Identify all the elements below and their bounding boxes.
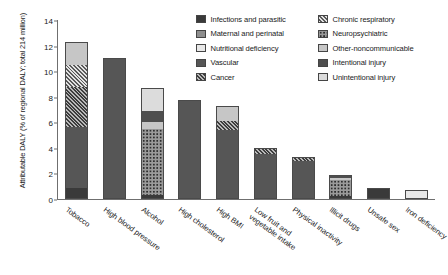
bar-segment-intentional[interactable]	[141, 111, 164, 122]
bar-segment-othernon[interactable]	[141, 122, 164, 129]
y-axis-tick-mark	[54, 46, 57, 47]
legend-item[interactable]: Infections and parasitic	[196, 12, 318, 27]
bar-segment-cancer[interactable]	[216, 121, 239, 130]
legend-label: Vascular	[211, 58, 239, 67]
x-axis-line	[57, 199, 435, 200]
legend-label: Neuropsychiatric	[333, 29, 388, 38]
y-axis-tick-mark	[54, 123, 57, 124]
legend-label: Intentional injury	[333, 58, 387, 67]
legend-label: Maternal and perinatal	[211, 29, 284, 38]
bar-segment-othernon[interactable]	[65, 42, 88, 65]
legend-swatch-cancer	[196, 73, 206, 81]
bar-stack[interactable]	[367, 188, 390, 199]
legend-label: Chronic respiratory	[333, 15, 395, 24]
bar-segment-intentional[interactable]	[329, 175, 352, 178]
bar-segment-cancer[interactable]	[65, 87, 88, 128]
bar-stack[interactable]	[254, 148, 277, 199]
bar-segment-infections[interactable]	[367, 188, 390, 199]
bar-segment-infections[interactable]	[141, 195, 164, 199]
bar-segment-infections[interactable]	[329, 196, 352, 199]
x-axis-label: Tobacco	[64, 205, 92, 229]
bar-segment-nutrition[interactable]	[405, 190, 428, 199]
y-axis-tick-mark	[54, 174, 57, 175]
bar-segment-chronic[interactable]	[65, 65, 88, 87]
x-axis-label: Unsafe sex	[366, 205, 402, 235]
x-axis-label: Illicit drugs	[328, 205, 362, 233]
bar-stack[interactable]	[178, 100, 201, 199]
y-axis-title: Attributable DALY (% of regional DALY; t…	[18, 6, 27, 196]
legend-item[interactable]: Maternal and perinatal	[196, 27, 318, 42]
legend-swatch-infections	[196, 15, 206, 23]
y-axis-tick-mark	[54, 148, 57, 149]
legend-item[interactable]: Nutritional deficiency	[196, 41, 318, 56]
legend-swatch-vascular	[196, 59, 206, 67]
legend-swatch-othernon	[318, 44, 328, 52]
legend-item[interactable]: Chronic respiratory	[318, 12, 436, 27]
bar-segment-othernon[interactable]	[329, 178, 352, 180]
legend-item[interactable]: Other-noncommunicable	[318, 41, 436, 56]
bar-segment-vascular[interactable]	[292, 161, 315, 199]
bar-stack[interactable]	[329, 175, 352, 199]
y-axis-tick-mark	[54, 21, 57, 22]
bar-stack[interactable]	[141, 88, 164, 199]
legend-item[interactable]: Intentional injury	[318, 56, 436, 71]
y-axis-tick-mark	[54, 72, 57, 73]
legend-item[interactable]: Neuropsychiatric	[318, 27, 436, 42]
x-axis-label: Iron deficiency	[403, 205, 448, 241]
bar-segment-vascular[interactable]	[254, 154, 277, 199]
bar-segment-vascular[interactable]	[65, 127, 88, 187]
bar-segment-cancer[interactable]	[292, 157, 315, 161]
legend-item[interactable]: Vascular	[196, 56, 318, 71]
legend-item[interactable]: Cancer	[196, 70, 318, 85]
y-axis-tick-mark	[54, 200, 57, 201]
bar-segment-neuro[interactable]	[141, 129, 164, 194]
legend-swatch-intentional	[318, 59, 328, 67]
x-axis-label: High BMI	[215, 205, 246, 231]
bar-segment-vascular[interactable]	[216, 130, 239, 199]
legend-label: Other-noncommunicable	[333, 44, 414, 53]
chart-legend: Infections and parasiticChronic respirat…	[196, 12, 436, 85]
bar-segment-vascular[interactable]	[178, 100, 201, 199]
bar-stack[interactable]	[292, 157, 315, 199]
legend-label: Infections and parasitic	[211, 15, 286, 24]
bar-segment-vascular[interactable]	[103, 58, 126, 199]
legend-swatch-chronic	[318, 15, 328, 23]
bar-segment-cancer[interactable]	[254, 148, 277, 154]
x-axis-label: Alcohol	[139, 205, 164, 227]
legend-swatch-nutrition	[196, 44, 206, 52]
bar-segment-neuro[interactable]	[329, 180, 352, 196]
legend-label: Cancer	[211, 73, 235, 82]
bar-segment-unintentional[interactable]	[141, 88, 164, 111]
y-axis-tick-mark	[54, 97, 57, 98]
bar-segment-othernon[interactable]	[216, 106, 239, 121]
legend-item[interactable]: Unintentional injury	[318, 70, 436, 85]
bar-stack[interactable]	[103, 58, 126, 199]
legend-swatch-maternal	[196, 30, 206, 38]
bar-segment-infections[interactable]	[65, 188, 88, 200]
legend-swatch-neuro	[318, 30, 328, 38]
legend-swatch-unintentional	[318, 73, 328, 81]
legend-label: Unintentional injury	[333, 73, 396, 82]
legend-label: Nutritional deficiency	[211, 44, 279, 53]
bar-stack[interactable]	[405, 190, 428, 199]
bar-stack[interactable]	[65, 42, 88, 199]
bar-stack[interactable]	[216, 106, 239, 199]
